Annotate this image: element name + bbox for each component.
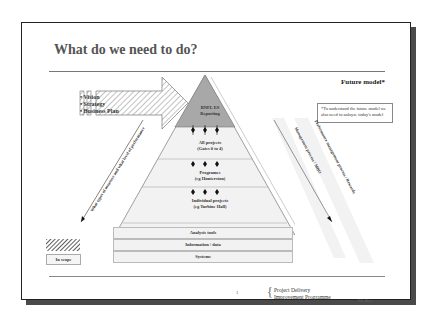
level-all-projects: All projects (Gates 0 to 4)	[180, 140, 240, 151]
bar-analysis-tools: Analysis tools	[113, 227, 293, 239]
level-line2: (eg Hunterston)	[180, 176, 240, 182]
apex-label: BNFL ES Reporting	[190, 105, 230, 116]
level-programmes: Programes (eg Hunterston)	[180, 170, 240, 181]
level-individual-projects: Individual projects (eg Turbine Hall)	[175, 198, 245, 209]
bar-systems: Systems	[113, 251, 293, 263]
arrow-bullets: • Vision • Strategy • Business Plan	[80, 94, 119, 115]
bullet-business-plan: • Business Plan	[80, 108, 119, 115]
slide-title: What do we need to do?	[54, 42, 198, 58]
programme-line1: Project Delivery	[274, 287, 331, 294]
bullet-strategy: • Strategy	[80, 101, 119, 108]
file-ref: File Ref	[358, 298, 371, 303]
apex-line2: Reporting	[190, 111, 230, 117]
footer-divider-right	[222, 276, 385, 277]
slide: What do we need to do? Future model* *To…	[21, 22, 411, 300]
level-line2: (eg Turbine Hall)	[175, 204, 245, 210]
brace-icon: {	[267, 286, 273, 298]
programme-name: Project Delivery Improvement Programme	[274, 287, 331, 301]
programme-line2: Improvement Programme	[274, 294, 331, 301]
page-number: 1	[236, 290, 238, 295]
level-line2: (Gates 0 to 4)	[180, 146, 240, 152]
footer-divider	[49, 276, 224, 277]
bullet-vision: • Vision	[80, 94, 119, 101]
bar-information-data: Information / data	[113, 239, 293, 251]
in-scope-legend: In scope	[46, 254, 81, 265]
future-model-label: Future model*	[341, 78, 385, 86]
in-scope-hatch-icon	[46, 239, 80, 251]
title-divider	[49, 71, 385, 72]
